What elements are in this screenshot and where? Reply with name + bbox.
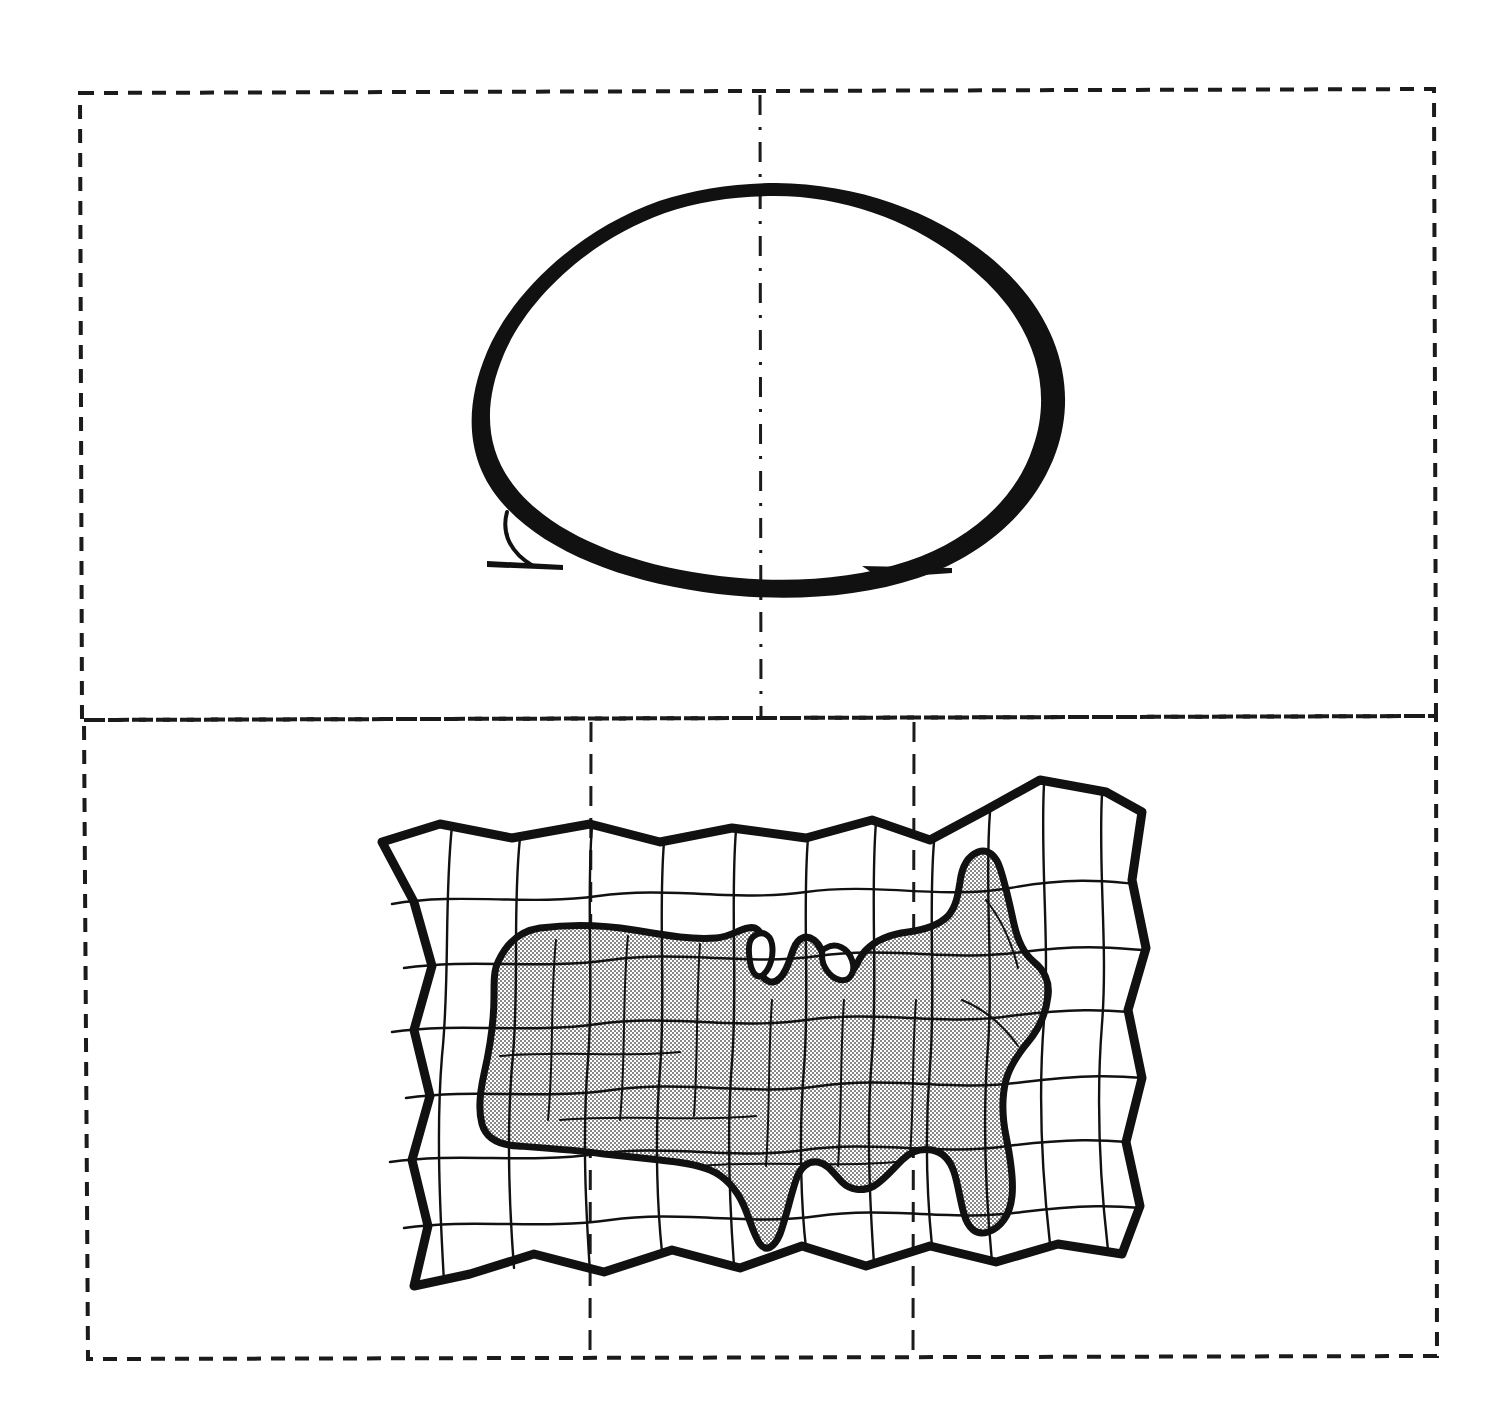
figure-canvas	[0, 0, 1504, 1424]
great-lakes-cutout	[749, 933, 773, 976]
great-lakes-cutout-2	[822, 946, 853, 981]
figure-svg	[0, 0, 1504, 1424]
